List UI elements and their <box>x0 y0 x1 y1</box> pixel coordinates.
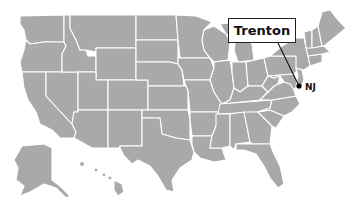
state-label-nj: NJ <box>305 82 316 92</box>
hawaii <box>80 162 125 197</box>
callout-label-box: Trenton <box>228 18 296 43</box>
alaska <box>14 144 70 198</box>
us-map <box>0 0 361 208</box>
trenton-marker[interactable] <box>296 83 301 88</box>
city-label: Trenton <box>234 23 290 38</box>
contiguous-states <box>20 10 346 192</box>
